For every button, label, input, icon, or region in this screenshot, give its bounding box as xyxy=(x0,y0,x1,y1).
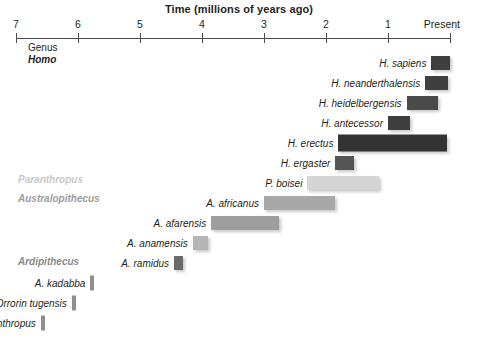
species-label: A. africanus xyxy=(206,198,264,209)
species-row: Orrorin tugensis xyxy=(0,294,478,312)
species-row: A. kadabba xyxy=(0,274,478,292)
species-label: P. boisei xyxy=(265,178,307,189)
axis-tick-1 xyxy=(388,33,389,43)
axis-tick-label-7: 7 xyxy=(13,18,19,30)
axis-tick-2 xyxy=(326,33,327,43)
species-range-bar xyxy=(72,296,76,311)
species-range-bar xyxy=(338,135,447,152)
species-range-bar xyxy=(307,176,378,190)
species-range-bar xyxy=(425,76,448,90)
axis-tick-label-4: 4 xyxy=(199,18,205,30)
species-range-bar xyxy=(431,56,450,70)
species-row: A. afarensis xyxy=(0,214,478,232)
species-range-bar xyxy=(174,256,183,270)
axis-tick-label-2: 2 xyxy=(323,18,329,30)
species-label: A. ramidus xyxy=(121,258,174,269)
species-label: Orrorin tugensis xyxy=(0,298,72,309)
chart-title: Time (millions of years ago) xyxy=(0,3,478,15)
axis-tick-label-5: 5 xyxy=(137,18,143,30)
genus-word: Genus xyxy=(28,42,57,53)
axis-tick-4 xyxy=(202,33,203,43)
species-label: H. neanderthalensis xyxy=(331,78,425,89)
species-range-bar xyxy=(41,316,45,331)
species-row: Sahelanthropus xyxy=(0,314,478,332)
axis-tick-6 xyxy=(78,33,79,43)
time-axis-line xyxy=(16,38,450,39)
axis-tick-7 xyxy=(16,33,17,43)
species-range-bar xyxy=(193,236,209,250)
species-range-bar xyxy=(388,116,410,130)
axis-tick-3 xyxy=(264,33,265,43)
species-row: H. neanderthalensis xyxy=(0,74,478,92)
species-row: A. anamensis xyxy=(0,234,478,252)
species-range-bar xyxy=(407,96,438,110)
evolution-timeline-chart: Time (millions of years ago) 7654321Pres… xyxy=(0,0,478,342)
species-range-bar xyxy=(211,216,279,230)
species-label: A. kadabba xyxy=(35,278,91,289)
species-row: H. heidelbergensis xyxy=(0,94,478,112)
axis-tick-5 xyxy=(140,33,141,43)
axis-tick-label-1: 1 xyxy=(385,18,391,30)
species-row: H. antecessor xyxy=(0,114,478,132)
species-label: A. anamensis xyxy=(127,238,193,249)
species-range-bar xyxy=(335,156,354,170)
species-label: H. heidelbergensis xyxy=(319,98,407,109)
species-row: P. boisei xyxy=(0,174,478,192)
species-row: H. ergaster xyxy=(0,154,478,172)
axis-tick-label-3: 3 xyxy=(261,18,267,30)
species-row: A. ramidus xyxy=(0,254,478,272)
species-label: H. antecessor xyxy=(321,118,388,129)
species-label: A. afarensis xyxy=(154,218,212,229)
species-range-bar xyxy=(90,276,94,291)
species-row: H. sapiens xyxy=(0,54,478,72)
axis-tick-label-6: 6 xyxy=(75,18,81,30)
genus-header-label: Genus xyxy=(28,42,57,53)
species-row: H. erectus xyxy=(0,134,478,152)
species-range-bar xyxy=(264,196,335,210)
species-label: Sahelanthropus xyxy=(0,318,41,329)
axis-tick-present xyxy=(450,33,451,43)
species-row: A. africanus xyxy=(0,194,478,212)
species-label: H. erectus xyxy=(288,138,339,149)
species-label: H. sapiens xyxy=(379,58,431,69)
species-label: H. ergaster xyxy=(281,158,335,169)
axis-label-present: Present xyxy=(424,18,460,30)
